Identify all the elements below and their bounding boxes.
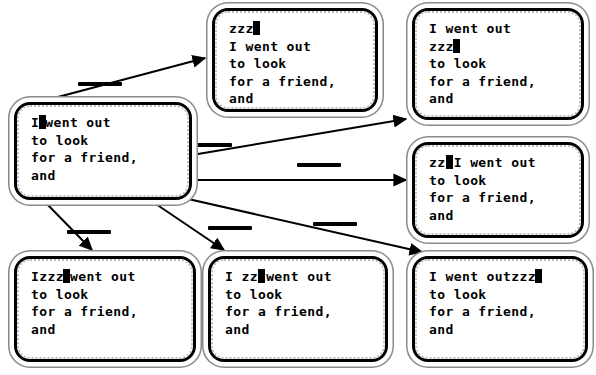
node-text: Izzzwent outto lookfor a friend,and: [17, 259, 193, 338]
text-segment: went out: [45, 115, 111, 130]
text-segment: to look: [429, 56, 487, 71]
node-insert-new-line-above[interactable]: zzzI went outto lookfor a friend,and: [212, 8, 378, 112]
text-line: to look: [429, 172, 581, 190]
text-line: to look: [229, 55, 375, 73]
text-line: for a friend,: [31, 303, 193, 321]
text-segment: went out: [70, 269, 136, 284]
node-origin-state[interactable]: Iwent outto lookfor a friend,and: [14, 102, 192, 200]
node-text: zzzI went outto lookfor a friend,and: [215, 11, 375, 108]
text-segment: zzz: [429, 39, 454, 54]
text-line: Izzzwent out: [31, 268, 193, 286]
text-line: for a friend,: [229, 73, 375, 91]
node-text: I zzzwent outto lookfor a friend,and: [211, 259, 385, 338]
text-segment: Izzz: [31, 269, 64, 284]
node-text: I went outzzzto lookfor a friend,and: [415, 259, 585, 338]
text-line: to look: [429, 55, 581, 73]
text-line: to look: [31, 286, 193, 304]
text-segment: went out: [266, 269, 332, 284]
text-line: Iwent out: [31, 114, 189, 132]
text-segment: to look: [31, 287, 89, 302]
edge-label-mid-word: [208, 226, 252, 230]
text-line: zzzI went out: [429, 154, 581, 172]
text-line: to look: [31, 132, 189, 150]
text-segment: for a friend,: [31, 150, 138, 165]
node-insert-new-line-below-first[interactable]: I went outzzzto lookfor a friend,and: [412, 8, 584, 120]
text-segment: for a friend,: [429, 304, 536, 319]
text-line: and: [31, 321, 193, 339]
text-segment: for a friend,: [225, 304, 332, 319]
text-line: to look: [225, 286, 385, 304]
text-line: for a friend,: [429, 303, 585, 321]
text-line: I went out: [429, 20, 581, 38]
block-cursor-icon: [535, 269, 542, 283]
edge-label-before-i: [297, 163, 341, 167]
edge-label-after-line1: [188, 143, 232, 147]
node-text: Iwent outto lookfor a friend,and: [17, 105, 189, 184]
text-segment: and: [429, 322, 454, 337]
text-segment: and: [229, 91, 254, 106]
text-segment: for a friend,: [229, 74, 336, 89]
block-cursor-icon: [253, 21, 260, 35]
edge-origin-to-end-line: [175, 196, 422, 252]
text-segment: I went out: [229, 39, 311, 54]
edge-label-after-i: [67, 230, 111, 234]
text-segment: for a friend,: [429, 190, 536, 205]
text-line: I went outzzz: [429, 268, 585, 286]
node-insert-before-went[interactable]: I zzzwent outto lookfor a friend,and: [208, 256, 388, 362]
text-segment: to look: [429, 173, 487, 188]
text-segment: I went out: [429, 21, 511, 36]
text-line: I went out: [229, 38, 375, 56]
text-segment: and: [225, 322, 250, 337]
text-line: to look: [429, 286, 585, 304]
text-line: and: [31, 167, 189, 185]
text-segment: and: [31, 322, 56, 337]
diagram-canvas: Iwent outto lookfor a friend,and zzzI we…: [0, 0, 596, 375]
text-segment: for a friend,: [31, 304, 138, 319]
node-text: zzzI went outto lookfor a friend,and: [415, 145, 581, 224]
text-line: and: [225, 321, 385, 339]
text-segment: and: [429, 91, 454, 106]
text-segment: to look: [225, 287, 283, 302]
text-segment: to look: [429, 287, 487, 302]
text-line: and: [429, 207, 581, 225]
text-line: for a friend,: [31, 149, 189, 167]
edge-origin-to-mid-word: [150, 200, 224, 250]
text-segment: and: [31, 168, 56, 183]
text-segment: and: [429, 208, 454, 223]
text-line: for a friend,: [429, 73, 581, 91]
text-segment: to look: [31, 133, 89, 148]
node-insert-before-i[interactable]: zzzI went outto lookfor a friend,and: [412, 142, 584, 238]
node-insert-at-end-of-line[interactable]: I went outzzzto lookfor a friend,and: [412, 256, 588, 362]
node-text: I went outzzzto lookfor a friend,and: [415, 11, 581, 108]
text-line: and: [429, 90, 581, 108]
block-cursor-icon: [446, 155, 453, 169]
text-line: zzz: [229, 20, 375, 38]
edge-origin-to-after-line1: [192, 119, 406, 155]
edge-origin-to-after-i: [45, 202, 92, 250]
text-segment: I went outzzz: [429, 269, 536, 284]
text-line: zzz: [429, 38, 581, 56]
node-insert-after-i[interactable]: Izzzwent outto lookfor a friend,and: [14, 256, 196, 362]
text-segment: to look: [229, 56, 287, 71]
text-line: for a friend,: [429, 189, 581, 207]
text-line: for a friend,: [225, 303, 385, 321]
text-segment: I went out: [454, 155, 536, 170]
text-segment: zzz: [229, 21, 254, 36]
edge-label-prefix: [78, 82, 122, 86]
text-line: I zzzwent out: [225, 268, 385, 286]
text-line: and: [429, 321, 585, 339]
text-line: and: [229, 90, 375, 108]
text-segment: for a friend,: [429, 74, 536, 89]
edge-label-end-line: [313, 222, 357, 226]
block-cursor-icon: [453, 39, 460, 53]
block-cursor-icon: [258, 269, 265, 283]
